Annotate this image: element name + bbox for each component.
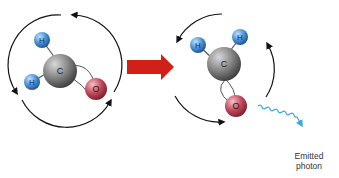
hydrogen-label: H <box>39 36 45 45</box>
hydrogen-label: H <box>29 78 35 87</box>
photon-wave-icon <box>258 105 301 124</box>
carbon-label: C <box>221 59 228 69</box>
label-line-2: photon <box>287 161 331 171</box>
hydrogen-label: H <box>195 41 201 50</box>
right-molecule: C H H O <box>190 29 248 117</box>
oxygen-label: O <box>92 84 99 94</box>
molecule-rotation-diagram: C H H O C H H O <box>0 0 339 178</box>
transition-arrow <box>127 54 174 80</box>
label-line-1: Emitted <box>287 151 331 161</box>
oxygen-label: O <box>232 101 239 111</box>
hydrogen-label: H <box>237 33 243 42</box>
left-molecule: C H H O <box>24 32 107 100</box>
carbon-label: C <box>57 66 64 76</box>
emitted-photon-label: Emitted photon <box>287 151 331 171</box>
